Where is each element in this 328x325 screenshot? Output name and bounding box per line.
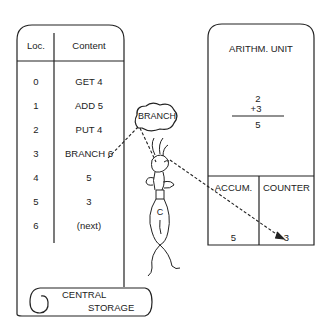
sum-result: 5 <box>252 119 264 130</box>
register-accum-value: 5 <box>208 232 259 243</box>
row-loc: 0 <box>18 76 54 87</box>
row-content: BRANCH 6 <box>54 148 124 159</box>
register-counter-value: 3 <box>259 232 314 243</box>
row-content: PUT 4 <box>54 124 124 135</box>
row-loc: 4 <box>18 172 54 183</box>
central-storage-box <box>17 25 124 314</box>
arith-unit-box <box>208 24 314 245</box>
row-content: GET 4 <box>54 76 124 87</box>
row-content: 3 <box>54 196 124 207</box>
row-content: (next) <box>54 220 124 231</box>
row-content: ADD 5 <box>54 100 124 111</box>
register-accum-label: ACCUM. <box>208 182 259 193</box>
row-loc: 3 <box>18 148 54 159</box>
pointer-bubble-to-figure <box>140 128 156 162</box>
storage-label-line2: STORAGE <box>88 302 134 313</box>
arith-unit-title: ARITHM. UNIT <box>208 43 314 54</box>
storage-label-line1: CENTRAL <box>62 289 106 300</box>
sum-operand2: +3 <box>248 103 264 114</box>
header-content: Content <box>54 40 124 51</box>
header-loc: Loc. <box>18 40 54 51</box>
thought-bubble-text: BRANCH <box>138 111 176 121</box>
figure-label: C <box>155 207 165 217</box>
row-loc: 1 <box>18 100 54 111</box>
row-content: 5 <box>54 172 124 183</box>
scroll-curl <box>30 288 48 313</box>
pointer-figure-to-counter <box>170 160 282 238</box>
row-loc: 6 <box>18 220 54 231</box>
row-loc: 2 <box>18 124 54 135</box>
row-loc: 5 <box>18 196 54 207</box>
register-counter-label: COUNTER <box>259 182 314 193</box>
